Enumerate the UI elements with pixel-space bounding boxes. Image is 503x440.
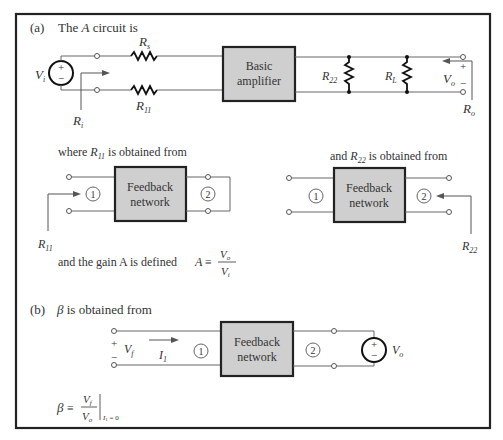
- i1-arrowhead-icon: [171, 337, 179, 343]
- ro-label: Ro: [462, 101, 475, 118]
- beta-numerator: Vf: [83, 393, 93, 407]
- r22-label: R22: [321, 69, 337, 85]
- terminal: [332, 329, 337, 334]
- box-label-line2: network: [130, 195, 169, 209]
- r11-arrowhead-icon: [73, 191, 81, 197]
- terminal: [447, 210, 452, 215]
- feedback-network-block: [115, 167, 186, 221]
- r11-arrow-line: [48, 194, 77, 231]
- ro-arrowhead-icon: [442, 58, 450, 64]
- gain-denominator: Vi: [221, 265, 230, 279]
- r22-arrow-line: [440, 196, 471, 234]
- gain-definition: and the gain A is defined A ≡ Vo Vi: [58, 248, 236, 279]
- wire-top-left: [61, 56, 97, 61]
- vi-label: Vi: [35, 67, 45, 84]
- port-2-label: 2: [422, 191, 427, 202]
- terminal: [112, 329, 117, 334]
- gain-text: and the gain A is defined: [58, 255, 177, 269]
- vf-label: Vf: [124, 342, 135, 358]
- port-1-label: 1: [91, 189, 96, 200]
- part-b-label: (b): [30, 302, 45, 317]
- beta-condition: I1 = 0: [102, 414, 119, 422]
- resistor-rs: [131, 52, 157, 60]
- box-label-line1: Feedback: [234, 335, 280, 349]
- ri-arrowhead-icon: [102, 70, 110, 76]
- wire-bottom-left: [61, 85, 97, 90]
- part-a-heading: The A circuit is: [58, 20, 138, 35]
- feedback-network-block: [334, 168, 405, 222]
- terminal-out-top: [461, 55, 466, 60]
- ri-arrow-line: [81, 73, 106, 110]
- r22-arrowhead-icon: [436, 193, 444, 199]
- part-b: (b) β is obtained from + − Vf I1 1 Feedb…: [30, 302, 403, 376]
- resistor-r22: [345, 57, 353, 92]
- terminal: [206, 175, 211, 180]
- terminal: [67, 209, 72, 214]
- vo-minus: −: [460, 77, 466, 89]
- rl-label: RL: [384, 69, 397, 85]
- vo-label: Vo: [443, 71, 455, 88]
- terminal-top-left: [95, 54, 100, 59]
- part-b-heading: β is obtained from: [56, 302, 152, 317]
- box-label-line1: Feedback: [127, 180, 173, 194]
- gain-equiv: ≡: [205, 255, 212, 269]
- amp-label-line2: amplifier: [237, 74, 281, 88]
- port-1-label: 1: [199, 346, 204, 357]
- box-label-line2: network: [349, 196, 388, 210]
- terminal: [287, 210, 292, 215]
- r11-subcircuit: where R11 is obtained from Feedback netw…: [37, 145, 230, 253]
- feedback-amplifier-diagram: (a) The A circuit is + − Vi Rs R11 Ri Ba…: [0, 0, 503, 440]
- beta-definition: β ≡ Vf Vo I1 = 0: [56, 393, 119, 424]
- beta-lhs: β: [56, 400, 64, 415]
- beta-denominator: Vo: [82, 410, 93, 424]
- amp-label-line1: Basic: [246, 59, 273, 73]
- wire: [337, 331, 375, 338]
- r11-caption: where R11 is obtained from: [58, 145, 187, 161]
- gain-lhs: A: [194, 255, 203, 269]
- r11-arrow-label: R11: [37, 237, 53, 253]
- box-label-line1: Feedback: [346, 181, 392, 195]
- i1-label: I1: [158, 348, 167, 364]
- r11-label: R11: [135, 98, 151, 115]
- resistor-rl: [403, 57, 411, 92]
- r22-arrow-label: R22: [461, 239, 477, 255]
- terminal: [332, 364, 337, 369]
- terminal: [206, 209, 211, 214]
- terminal: [112, 363, 117, 368]
- rs-label: Rs: [138, 34, 150, 51]
- terminal: [447, 176, 452, 181]
- wire: [337, 362, 375, 366]
- vf-minus: −: [111, 351, 117, 363]
- terminal: [67, 175, 72, 180]
- beta-equiv: ≡: [67, 401, 74, 415]
- part-a-label: (a): [30, 20, 44, 35]
- terminal-out-bottom: [461, 90, 466, 95]
- part-a: (a) The A circuit is + − Vi Rs R11 Ri Ba…: [30, 20, 475, 130]
- box-label-line2: network: [237, 350, 276, 364]
- r22-caption: and R22 is obtained from: [330, 149, 448, 165]
- vo-label: Vo: [392, 343, 403, 359]
- vf-plus: +: [111, 337, 117, 349]
- ri-label: Ri: [72, 113, 83, 130]
- r22-subcircuit: and R22 is obtained from 1 Feedback netw…: [287, 149, 478, 255]
- source-minus: −: [58, 72, 64, 84]
- port-1-label: 1: [314, 191, 319, 202]
- terminal-bottom-left: [95, 88, 100, 93]
- terminal: [287, 176, 292, 181]
- port-2-label: 2: [206, 189, 211, 200]
- resistor-r11: [131, 86, 157, 94]
- source-minus: −: [371, 349, 377, 361]
- port-2-label: 2: [311, 345, 316, 356]
- gain-numerator: Vo: [220, 248, 231, 262]
- vo-plus: +: [460, 60, 466, 72]
- feedback-network-block: [221, 322, 293, 376]
